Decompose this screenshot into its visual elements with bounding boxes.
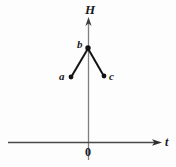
figure-canvas: H t b a c 0 <box>0 0 176 167</box>
point-marker-c <box>102 74 107 79</box>
point-label-a: a <box>59 71 65 82</box>
segment-b-c <box>88 49 104 76</box>
point-label-b: b <box>77 39 83 50</box>
point-marker-a <box>69 75 74 80</box>
point-label-c: c <box>109 71 114 82</box>
diagram-svg <box>0 0 176 167</box>
vertical-axis-label: H <box>85 3 95 16</box>
segment-a-b <box>72 49 89 77</box>
origin-label: 0 <box>85 146 91 158</box>
horizontal-axis-label: t <box>165 136 168 148</box>
point-marker-b <box>85 45 90 50</box>
